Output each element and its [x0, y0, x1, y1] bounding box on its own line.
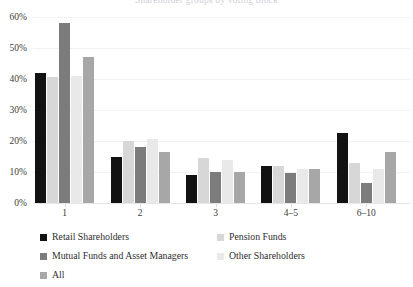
bar	[361, 183, 372, 203]
x-axis-tick-label: 6–10	[344, 208, 388, 219]
bar-group	[111, 17, 170, 203]
bar	[135, 147, 146, 203]
y-axis-tick-label: 0%	[14, 198, 27, 208]
legend-label: All	[52, 269, 65, 281]
legend-swatch-icon	[40, 253, 47, 260]
bar	[35, 73, 46, 203]
bar	[47, 77, 58, 203]
x-axis-tickmark	[291, 204, 292, 207]
x-axis-tick: 3	[194, 208, 238, 219]
x-axis-tick: 4–5	[269, 208, 313, 219]
bar	[83, 57, 94, 203]
bar-group	[261, 17, 320, 203]
bar	[273, 166, 284, 203]
legend-entry[interactable]: Retail Shareholders	[40, 231, 129, 243]
x-axis: 1234–56–10	[33, 204, 410, 222]
bar-group	[186, 17, 245, 203]
x-axis-tick-label: 4–5	[269, 208, 313, 219]
bar	[198, 158, 209, 203]
x-axis-tickmark	[140, 204, 141, 207]
legend-entry[interactable]: Other Shareholders	[217, 250, 305, 262]
legend-label: Pension Funds	[229, 231, 286, 243]
x-axis-tick-label: 1	[43, 208, 87, 219]
x-axis-tick-label: 3	[194, 208, 238, 219]
y-axis-tick-label: 50%	[10, 43, 27, 53]
x-axis-tick: 1	[43, 208, 87, 219]
bar	[111, 157, 122, 204]
bar	[285, 173, 296, 203]
bar	[234, 172, 245, 203]
legend-swatch-icon	[217, 234, 224, 241]
x-axis-tickmark	[366, 204, 367, 207]
legend-swatch-icon	[217, 253, 224, 260]
chart-figure: Shareholder groups by voting block 0%10%…	[0, 0, 413, 287]
y-axis-tick-label: 30%	[10, 105, 27, 115]
chart-legend: Retail ShareholdersPension FundsMutual F…	[40, 231, 370, 283]
bar	[159, 152, 170, 203]
bar	[71, 76, 82, 203]
y-axis-tick-label: 40%	[10, 74, 27, 84]
legend-label: Mutual Funds and Asset Managers	[52, 250, 188, 262]
bar	[297, 169, 308, 203]
bar	[309, 169, 320, 203]
y-axis-tick-label: 10%	[10, 167, 27, 177]
bar-group	[337, 17, 396, 203]
x-axis-tick: 2	[118, 208, 162, 219]
x-axis-tickmark	[65, 204, 66, 207]
y-axis-tick-label: 20%	[10, 136, 27, 146]
legend-swatch-icon	[40, 234, 47, 241]
bar	[210, 172, 221, 203]
x-axis-tick: 6–10	[344, 208, 388, 219]
bar-group	[35, 17, 94, 203]
bar	[123, 141, 134, 203]
y-axis-tick-label: 60%	[10, 12, 27, 22]
bar	[222, 160, 233, 203]
legend-swatch-icon	[40, 272, 47, 279]
legend-entry[interactable]: All	[40, 269, 65, 281]
legend-entry[interactable]: Mutual Funds and Asset Managers	[40, 250, 188, 262]
y-axis: 0%10%20%30%40%50%60%	[0, 17, 31, 203]
bar	[385, 152, 396, 203]
bar	[337, 133, 348, 203]
legend-entry[interactable]: Pension Funds	[217, 231, 286, 243]
bar	[59, 23, 70, 203]
bar	[186, 175, 197, 203]
legend-label: Other Shareholders	[229, 250, 305, 262]
legend-label: Retail Shareholders	[52, 231, 129, 243]
x-axis-tick-label: 2	[118, 208, 162, 219]
chart-title: Shareholder groups by voting block	[0, 0, 413, 6]
bar	[349, 163, 360, 203]
plot-area	[33, 17, 410, 203]
bar	[373, 169, 384, 203]
bar	[147, 139, 158, 203]
x-axis-tickmark	[216, 204, 217, 207]
bar	[261, 166, 272, 203]
